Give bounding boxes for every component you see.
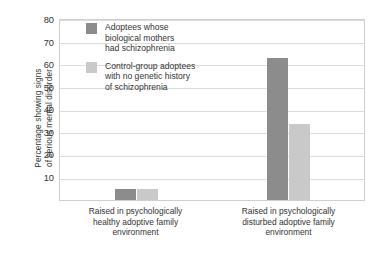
legend-label-series-1-line-3: of schizophrenia — [105, 82, 195, 93]
legend-swatch-icon-series-1 — [86, 62, 97, 73]
x-axis-category-labels: Raised in psychologically healthy adopti… — [59, 206, 365, 256]
y-tick-40: 40 — [26, 105, 54, 115]
legend-label-series-0-line-1: Adoptees whose — [105, 22, 175, 33]
y-tick-20: 20 — [26, 150, 54, 160]
legend: Adoptees whose biological mothers had sc… — [86, 22, 266, 100]
y-tick-10: 10 — [26, 173, 54, 183]
y-tick-30: 30 — [26, 128, 54, 138]
legend-item-1: Control-group adoptees with no genetic h… — [86, 61, 266, 93]
legend-label-series-1-line-1: Control-group adoptees — [105, 61, 195, 72]
y-tick-60: 60 — [26, 60, 54, 70]
x-label-category-0: Raised in psychologically healthy adopti… — [59, 206, 212, 238]
bar-series-1-category-1 — [289, 124, 310, 201]
legend-label-series-0-line-2: biological mothers — [105, 33, 175, 44]
y-tick-70: 70 — [26, 38, 54, 48]
legend-label-series-1: Control-group adoptees with no genetic h… — [105, 61, 195, 93]
y-tick-80: 80 — [26, 15, 54, 25]
bar-series-0-category-0 — [115, 189, 136, 200]
legend-item-0: Adoptees whose biological mothers had sc… — [86, 22, 266, 54]
legend-swatch-icon-series-0 — [86, 23, 97, 34]
legend-label-series-0: Adoptees whose biological mothers had sc… — [105, 22, 175, 54]
x-label-category-0-line-3: environment — [59, 227, 212, 238]
bar-series-0-category-1 — [267, 58, 288, 200]
x-label-category-1-line-1: Raised in psychologically — [212, 206, 365, 217]
bar-series-1-category-0 — [137, 189, 158, 200]
legend-label-series-0-line-3: had schizophrenia — [105, 43, 175, 54]
x-label-category-1-line-2: disturbed adoptive family — [212, 217, 365, 228]
y-axis-tick-labels: 80 70 60 50 40 30 20 10 — [26, 0, 54, 262]
legend-label-series-1-line-2: with no genetic history — [105, 71, 195, 82]
x-label-category-0-line-2: healthy adoptive family — [59, 217, 212, 228]
x-label-category-1-line-3: environment — [212, 227, 365, 238]
y-tick-50: 50 — [26, 83, 54, 93]
bar-chart: Percentage showing signs of serious ment… — [0, 0, 370, 262]
x-label-category-0-line-1: Raised in psychologically — [59, 206, 212, 217]
x-label-category-1: Raised in psychologically disturbed adop… — [212, 206, 365, 238]
